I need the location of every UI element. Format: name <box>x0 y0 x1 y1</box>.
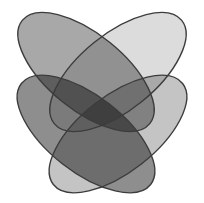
set-fills <box>0 0 204 203</box>
venn-diagram <box>0 0 204 203</box>
venn-diagram-svg <box>0 0 204 203</box>
